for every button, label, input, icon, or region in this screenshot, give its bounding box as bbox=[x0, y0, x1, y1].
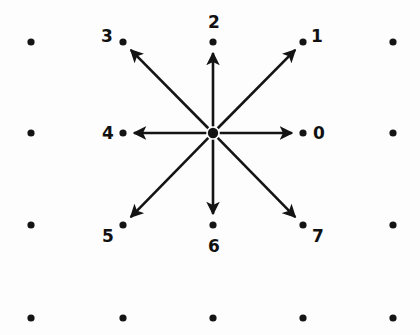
center-dot bbox=[208, 128, 218, 138]
lattice-dot bbox=[27, 221, 34, 228]
direction-arrow-5 bbox=[131, 138, 209, 217]
direction-label-3: 3 bbox=[101, 28, 113, 45]
chain-code-figure: 01234567 bbox=[0, 0, 420, 335]
lattice-dot bbox=[389, 314, 396, 321]
direction-label-6: 6 bbox=[208, 238, 220, 255]
direction-dot-0 bbox=[299, 129, 306, 136]
direction-label-7: 7 bbox=[312, 228, 324, 245]
diagram-canvas bbox=[0, 0, 420, 335]
direction-arrow-1 bbox=[218, 50, 295, 128]
lattice-dot bbox=[389, 221, 396, 228]
direction-label-4: 4 bbox=[102, 125, 114, 142]
lattice-dot bbox=[209, 314, 216, 321]
lattice-dot bbox=[27, 129, 34, 136]
direction-dot-5 bbox=[119, 221, 126, 228]
center-origin-dot bbox=[208, 128, 218, 138]
direction-dot-4 bbox=[119, 129, 126, 136]
lattice-dot bbox=[299, 314, 306, 321]
direction-dot-7 bbox=[299, 221, 306, 228]
lattice-dot bbox=[119, 314, 126, 321]
direction-dot-6 bbox=[209, 221, 216, 228]
lattice-dot bbox=[389, 129, 396, 136]
direction-dot-2 bbox=[209, 38, 216, 45]
lattice-dot bbox=[27, 38, 34, 45]
direction-label-1: 1 bbox=[311, 28, 323, 45]
lattice-dot bbox=[27, 314, 34, 321]
direction-label-5: 5 bbox=[102, 228, 114, 245]
lattice-dot bbox=[389, 38, 396, 45]
direction-dot-1 bbox=[299, 38, 306, 45]
direction-label-2: 2 bbox=[208, 14, 220, 31]
direction-dot-3 bbox=[119, 38, 126, 45]
direction-arrow-3 bbox=[131, 50, 208, 128]
direction-label-0: 0 bbox=[313, 125, 325, 142]
direction-arrow-7 bbox=[218, 138, 296, 217]
